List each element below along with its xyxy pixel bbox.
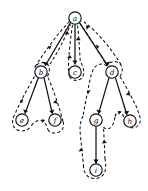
node-i[interactable]: i	[90, 164, 102, 176]
tour-arrowhead-a-c	[67, 55, 72, 58]
tour-segment-d-to-g	[83, 64, 107, 116]
tree-edge-b-f	[44, 78, 52, 114]
tree-edge-a-b	[45, 23, 70, 66]
tour-arrowhead-e-f	[42, 119, 46, 123]
arrowhead-d-g	[96, 110, 101, 114]
tour-segment-around-g	[104, 117, 116, 129]
tree-edge-d-h	[115, 78, 127, 115]
node-g-label: g	[94, 116, 99, 125]
node-c-label: c	[73, 68, 77, 77]
tree-edge-b-e	[25, 78, 38, 114]
tour-arrowhead-g-h	[118, 111, 122, 115]
node-c[interactable]: c	[69, 66, 81, 78]
tour-arrowhead-a-b	[48, 45, 52, 50]
tour-arrowhead-i-g	[102, 140, 107, 143]
tour-segment-b-up-to-a	[50, 25, 71, 65]
arrowhead-a-c	[72, 60, 77, 64]
tree-diagram-canvas: a b c d e f g	[0, 0, 148, 191]
node-g[interactable]: g	[90, 114, 102, 126]
arrowhead-d-h	[124, 111, 129, 115]
nodes-group: a b c d e f g	[16, 12, 136, 176]
euler-tour-path-group	[13, 22, 141, 179]
tree-edge-a-d	[80, 23, 108, 66]
node-b[interactable]: b	[35, 66, 47, 78]
node-d[interactable]: d	[106, 66, 118, 78]
tree-edge-d-g	[99, 78, 109, 114]
node-f[interactable]: f	[49, 114, 61, 126]
node-a-label: a	[73, 14, 77, 23]
node-b-label: b	[39, 68, 44, 77]
tour-segment-a-to-b	[35, 22, 70, 68]
node-i-label: i	[95, 166, 97, 175]
tour-segment-c-to-a	[78, 25, 81, 62]
node-e[interactable]: e	[16, 114, 28, 126]
node-a[interactable]: a	[69, 12, 81, 24]
tour-segment-e-to-f	[32, 120, 48, 129]
node-d-label: d	[110, 68, 115, 77]
tour-segment-g-to-i	[80, 116, 83, 165]
tour-arrowhead-c-a	[76, 37, 81, 40]
tour-arrowhead-h-d	[126, 92, 131, 96]
tree-edges-group	[25, 23, 127, 164]
tree-traversal-figure: a b c d e f g	[0, 0, 148, 191]
arrowhead-g-i	[93, 160, 98, 164]
tour-arrowhead-g-i	[79, 148, 84, 152]
arrowhead-b-e	[23, 109, 28, 113]
node-h-label: h	[128, 117, 133, 126]
node-h[interactable]: h	[124, 115, 136, 127]
node-e-label: e	[20, 116, 25, 125]
